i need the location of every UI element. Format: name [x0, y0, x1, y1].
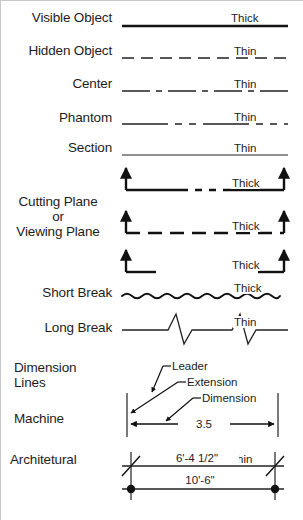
- weight-tag-phantom: Thin: [233, 111, 257, 123]
- weight-tag-cutting-plane-a: Thick: [231, 177, 260, 189]
- annotation-label-dimension: Dimension: [202, 392, 256, 404]
- weight-tag-hidden-object: Thin: [233, 45, 257, 57]
- weight-tag-center: Thin: [233, 78, 257, 90]
- weight-tag-section: Thin: [233, 142, 257, 154]
- arch-dot-right: [271, 485, 279, 493]
- line-short-break: [122, 294, 280, 299]
- dimension-value-arch-upper: 6'-4 1/2": [155, 452, 239, 464]
- weight-tag-long-break: Thin: [233, 316, 257, 328]
- annotation-label-leader: Leader: [172, 360, 208, 372]
- arch-dot-left: [127, 485, 135, 493]
- line-types-chart: Visible Object Hidden Object Center Phan…: [0, 0, 303, 520]
- dimension-value-arch-lower: 10'-6": [163, 474, 237, 486]
- annotation-leaders: [131, 366, 201, 421]
- weight-tag-short-break: Thick: [233, 282, 262, 294]
- weight-tag-cutting-plane-b: Thick: [231, 220, 260, 232]
- line-long-break: [122, 314, 288, 344]
- dimension-value-machine: 3.5: [178, 418, 230, 430]
- weight-tag-visible-object: Thick: [230, 12, 259, 24]
- annotation-label-extension: Extension: [187, 376, 238, 388]
- weight-tag-cutting-plane-c: Thick: [231, 259, 260, 271]
